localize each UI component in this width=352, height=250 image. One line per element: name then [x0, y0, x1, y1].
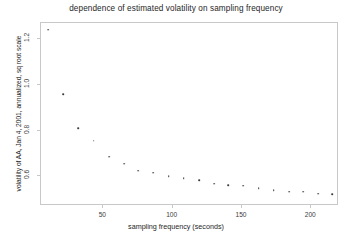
x-tick-label: 50 [99, 211, 106, 218]
data-point [243, 185, 245, 187]
scatter-series [41, 23, 337, 204]
y-tick-label: 1.0 [23, 75, 30, 91]
data-point [137, 170, 139, 172]
x-tick-mark [310, 205, 311, 208]
data-point [302, 191, 304, 193]
data-point [258, 187, 260, 189]
data-point [108, 156, 110, 158]
data-point [47, 29, 49, 31]
x-tick-mark [172, 205, 173, 208]
y-tick-label: 1.2 [23, 30, 30, 46]
data-point [227, 184, 229, 186]
data-point [152, 172, 154, 174]
data-point [168, 175, 170, 177]
data-point [93, 140, 95, 142]
y-tick-label: 0.8 [23, 121, 30, 137]
data-point [213, 183, 215, 185]
y-tick-label: 0.6 [23, 167, 30, 183]
x-axis-title: sampling frequency (seconds) [0, 222, 352, 231]
chart-figure: dependence of estimated volatility on sa… [0, 0, 352, 250]
data-point [62, 93, 64, 95]
data-point [331, 193, 333, 195]
chart-title: dependence of estimated volatility on sa… [0, 4, 352, 13]
plot-area [40, 22, 338, 205]
data-point [198, 180, 200, 182]
y-axis-title: volatility of AA, Jan 4, 2001, annualize… [15, 22, 22, 205]
data-point [123, 163, 125, 165]
x-tick-label: 150 [235, 211, 246, 218]
x-tick-mark [241, 205, 242, 208]
x-tick-label: 200 [305, 211, 316, 218]
data-point [183, 177, 185, 179]
x-tick-mark [102, 205, 103, 208]
data-point [288, 191, 290, 193]
data-point [273, 190, 275, 192]
x-tick-label: 100 [166, 211, 177, 218]
data-point [78, 127, 80, 129]
data-point [317, 193, 319, 195]
